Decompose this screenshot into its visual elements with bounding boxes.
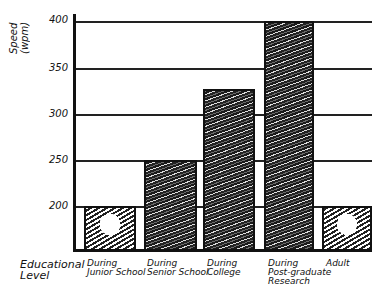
bar-college (203, 89, 255, 251)
category-label-postgrad: During Post-graduate Research (268, 259, 331, 286)
y-tick-400: 400 (38, 14, 68, 25)
x-axis-label-line2: Level (20, 270, 85, 281)
category-label-adult: Adult (326, 259, 350, 268)
cat-line: Junior School (87, 268, 146, 277)
category-label-junior: During Junior School (87, 259, 146, 277)
y-tick-300: 300 (38, 108, 68, 119)
x-axis (76, 249, 372, 252)
bar-post-graduate (264, 21, 314, 251)
cat-line: Adult (326, 259, 350, 268)
gridline-350 (76, 68, 372, 70)
y-tick-350: 350 (38, 62, 68, 73)
bar-junior-school (84, 206, 136, 251)
y-axis (73, 14, 76, 252)
bar-adult (322, 206, 372, 251)
y-tick-200: 200 (38, 200, 68, 211)
x-axis-label: Educational Level (20, 259, 85, 281)
gridline-400 (76, 21, 372, 23)
y-tick-250: 250 (38, 154, 68, 165)
cat-line: Research (268, 277, 331, 286)
cat-line: Senior School (147, 268, 208, 277)
bar-senior-school (144, 160, 197, 251)
y-axis-label: Speed (wpm) (8, 8, 26, 68)
category-label-senior: During Senior School (147, 259, 208, 277)
category-label-college: During College (207, 259, 241, 277)
cat-line: College (207, 268, 241, 277)
